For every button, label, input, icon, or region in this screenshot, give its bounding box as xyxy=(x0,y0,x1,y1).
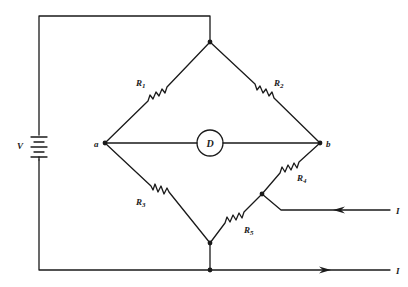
node-a-label: a xyxy=(94,139,99,149)
detector-label: D xyxy=(205,138,213,149)
node-a-dot xyxy=(103,141,108,146)
top-wire xyxy=(39,16,210,135)
r1-label: R1 xyxy=(135,78,146,90)
r3-label: R3 xyxy=(135,197,146,209)
r4-label: R4 xyxy=(296,173,307,185)
r5-label: R5 xyxy=(243,225,254,237)
bottom-node-dot xyxy=(208,241,213,246)
r2-label: R2 xyxy=(273,78,284,90)
resistor-r5 xyxy=(210,194,262,243)
top-node-dot xyxy=(208,40,213,45)
current-out-label: I xyxy=(395,266,400,276)
bridge-circuit-diagram: V R1 R2 R3 R4 R5 D I I a b xyxy=(0,0,408,287)
left-bottom-wire xyxy=(39,160,390,270)
node-b-dot xyxy=(318,141,323,146)
node-b-label: b xyxy=(326,139,331,149)
current-in-wire xyxy=(262,194,390,210)
current-in-label: I xyxy=(395,206,400,216)
junction-r4-r5-dot xyxy=(260,192,265,197)
battery-icon xyxy=(31,137,47,160)
resistor-r2 xyxy=(210,42,320,143)
resistor-r3 xyxy=(105,143,210,243)
resistor-r1 xyxy=(105,42,210,143)
source-label: V xyxy=(17,141,24,151)
resistor-r4 xyxy=(262,143,320,194)
bottom-wire-dot xyxy=(208,268,213,273)
